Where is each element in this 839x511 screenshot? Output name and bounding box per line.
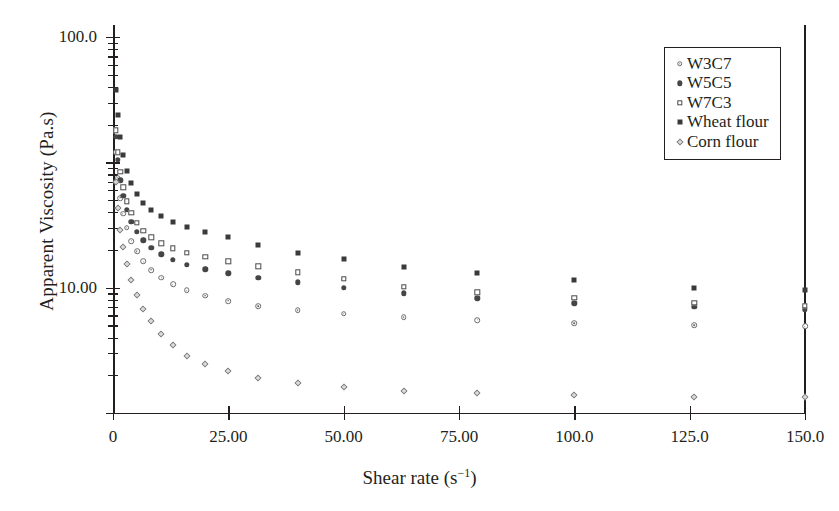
legend-item[interactable]: W5C5 — [673, 74, 769, 94]
data-point — [140, 305, 147, 312]
data-point — [341, 311, 347, 317]
data-point — [572, 301, 577, 306]
y-tick-major: 10.00 — [106, 162, 120, 163]
y-tick-minor — [108, 43, 118, 44]
data-point — [572, 278, 577, 283]
data-point — [802, 303, 807, 308]
y-tick-minor — [108, 65, 118, 66]
y-axis-spine — [113, 25, 115, 414]
data-point — [133, 291, 140, 298]
data-point — [170, 282, 176, 288]
data-point — [475, 296, 480, 301]
data-point — [141, 259, 147, 265]
x-tick-label: 150.0 — [786, 427, 824, 447]
data-point — [202, 361, 209, 368]
data-point — [159, 241, 164, 246]
data-point — [115, 150, 120, 155]
data-point — [113, 128, 118, 133]
data-point — [141, 200, 146, 205]
data-point — [571, 391, 578, 398]
data-point — [134, 220, 139, 225]
data-point — [341, 285, 346, 290]
x-tick — [113, 406, 114, 420]
y-axis-label: Apparent Viscosity (Pa.s) — [36, 46, 58, 376]
legend-item[interactable]: Corn flour — [673, 132, 769, 152]
legend-label: Corn flour — [687, 132, 758, 152]
y-tick-minor — [108, 75, 118, 76]
data-point — [226, 259, 231, 264]
y-tick-minor — [108, 353, 118, 354]
data-point — [203, 254, 208, 259]
data-point — [134, 229, 139, 234]
data-point — [170, 219, 175, 224]
data-point — [149, 245, 154, 250]
data-point — [341, 256, 346, 261]
data-point — [572, 295, 577, 300]
y-tick-minor — [108, 300, 118, 301]
y-tick-minor — [108, 375, 118, 376]
marker-glyph — [677, 100, 682, 105]
data-point — [184, 250, 189, 255]
data-point — [295, 269, 300, 274]
y-tick-minor — [108, 338, 118, 339]
data-point — [202, 293, 208, 299]
legend-label: W3C7 — [687, 54, 731, 74]
data-point — [225, 368, 232, 375]
data-point — [128, 277, 135, 284]
data-point — [256, 264, 261, 269]
y-tick-minor — [108, 125, 118, 126]
legend-marker-icon — [673, 57, 686, 70]
data-point — [120, 185, 125, 190]
data-point — [124, 198, 129, 203]
data-point — [475, 317, 481, 323]
x-tick — [228, 406, 229, 420]
data-point — [158, 330, 165, 337]
marker-glyph — [677, 81, 682, 86]
x-tick — [344, 406, 345, 420]
data-point — [124, 168, 129, 173]
data-point — [475, 270, 480, 275]
legend-item[interactable]: Wheat flour — [673, 113, 769, 133]
data-point — [115, 112, 120, 117]
y-tick-minor — [108, 103, 118, 104]
viscosity-shear-rate-chart: Apparent Viscosity (Pa.s) Shear rate (s−… — [0, 0, 839, 511]
data-point — [340, 384, 347, 391]
data-point — [801, 393, 808, 400]
data-point — [184, 288, 190, 294]
legend-label: W5C5 — [687, 73, 731, 93]
x-tick — [574, 406, 575, 420]
data-point — [169, 341, 176, 348]
data-point — [401, 284, 406, 289]
data-point — [159, 275, 165, 281]
data-point — [256, 242, 261, 247]
data-point — [184, 262, 189, 267]
y-tick-major: 1.000 — [106, 288, 120, 289]
data-point — [129, 181, 134, 186]
data-point — [803, 288, 808, 293]
x-axis-label: Shear rate (s−1) — [0, 466, 839, 489]
y-tick-minor — [108, 250, 118, 251]
y-tick-major: 100.0 — [106, 37, 120, 38]
y-tick-minor — [108, 200, 118, 201]
x-tick-label: 25.00 — [209, 427, 247, 447]
marker-glyph — [676, 138, 683, 145]
y-tick-label: 100.0 — [59, 27, 97, 47]
y-tick-minor — [108, 307, 118, 308]
y-tick-minor — [108, 56, 118, 57]
data-point — [170, 246, 175, 251]
marker-glyph — [677, 61, 683, 67]
data-point — [159, 214, 164, 219]
legend-item[interactable]: W3C7 — [673, 54, 769, 74]
legend-item[interactable]: W7C3 — [673, 93, 769, 113]
x-tick-label: 0 — [109, 427, 118, 447]
y-tick-minor — [108, 190, 118, 191]
data-point — [170, 257, 175, 262]
legend-marker-icon — [673, 135, 686, 148]
data-point — [141, 228, 146, 233]
data-point — [400, 387, 407, 394]
data-point — [256, 304, 262, 310]
x-tick-label: 100.0 — [555, 427, 593, 447]
data-point — [401, 315, 407, 321]
data-point — [141, 238, 146, 243]
data-point — [149, 208, 154, 213]
